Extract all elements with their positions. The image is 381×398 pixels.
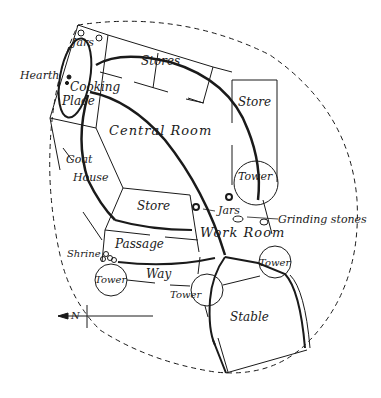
label-work-room: Work Room — [200, 226, 285, 239]
label-house: House — [73, 172, 108, 183]
label-passage: Passage — [115, 238, 164, 250]
label-jars-center: Jars — [218, 205, 240, 216]
jar-circle — [193, 204, 199, 210]
label-grinding-stones: Grinding stones — [278, 214, 367, 225]
tower-east-circle — [234, 161, 278, 205]
hearth-dot — [65, 81, 68, 84]
jar-circle — [96, 35, 102, 41]
store-center-block — [123, 188, 197, 240]
work-room-south-wall — [225, 257, 305, 348]
label-central-room: Central Room — [109, 124, 212, 137]
shrine-circle — [101, 257, 106, 262]
site-plan-diagram: Jars Hearth Cooking Place Stores Store C… — [0, 0, 381, 398]
plan-drawing — [0, 0, 381, 398]
shrine-circle — [104, 252, 109, 257]
label-tower-east: Tower — [238, 171, 272, 182]
label-tower-sw: Tower — [95, 275, 126, 285]
label-stores: Stores — [141, 55, 180, 67]
label-store-center: Store — [137, 200, 170, 212]
label-tower-s: Tower — [170, 290, 201, 300]
label-north: N — [71, 311, 80, 321]
stores-block — [108, 35, 213, 103]
stable-west-wall — [210, 257, 225, 345]
label-cooking: Cooking — [70, 81, 120, 93]
label-store-ne: Store — [238, 96, 271, 108]
label-place: Place — [62, 95, 95, 107]
label-stable: Stable — [230, 311, 269, 323]
label-hearth: Hearth — [20, 70, 59, 81]
hearth-dot — [67, 75, 71, 79]
shrine-circle — [112, 258, 117, 263]
label-goat: Goat — [66, 154, 92, 165]
jar-circle — [226, 194, 232, 200]
passage-way-wall — [118, 258, 215, 264]
label-shrine: Shrine — [67, 249, 101, 259]
north-arrow-head — [58, 313, 68, 319]
label-jars-top: Jars — [72, 37, 94, 48]
label-way: Way — [146, 268, 171, 280]
label-tower-se: Tower — [259, 258, 290, 268]
